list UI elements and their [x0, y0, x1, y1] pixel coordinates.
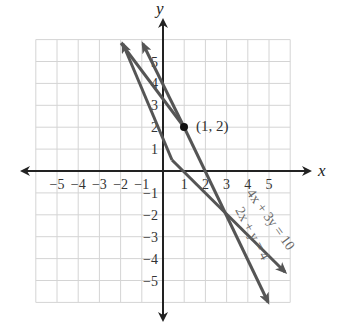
- x-tick-label: −3: [92, 177, 107, 192]
- y-tick-label: −2: [143, 208, 158, 223]
- y-tick-label: −3: [143, 230, 158, 245]
- y-tick-label: −4: [143, 252, 158, 267]
- x-tick-label: −2: [113, 177, 128, 192]
- axes: [22, 20, 310, 320]
- x-axis-label: x: [317, 161, 326, 180]
- y-axis-label: y: [154, 0, 164, 18]
- y-tick-label: −5: [143, 274, 158, 289]
- coordinate-plane: x y −5−4−3−2−112345 54321−1−2−3−4−5 (1, …: [0, 0, 347, 335]
- x-tick-labels: −5−4−3−2−112345: [50, 177, 273, 192]
- x-tick-label: 1: [181, 177, 188, 192]
- intersection-label: (1, 2): [196, 118, 229, 135]
- x-tick-label: −4: [71, 177, 86, 192]
- y-tick-label: 1: [151, 142, 158, 157]
- intersection-point: [180, 123, 188, 131]
- x-tick-label: 3: [223, 177, 230, 192]
- x-tick-label: 5: [266, 177, 273, 192]
- y-tick-label: −1: [143, 186, 158, 201]
- x-tick-label: −5: [50, 177, 65, 192]
